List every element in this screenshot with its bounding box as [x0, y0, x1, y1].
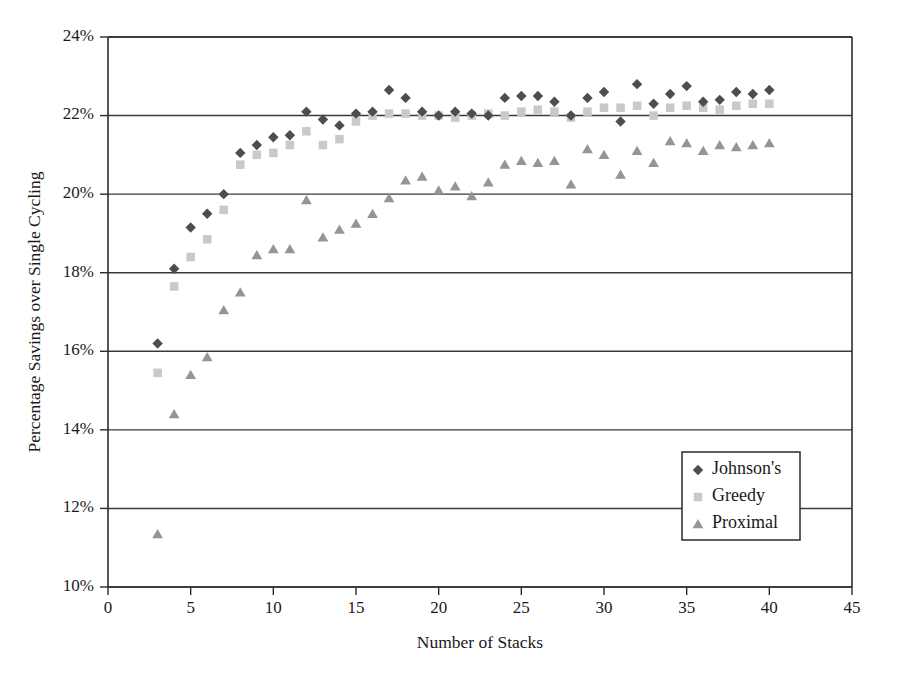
series-johnson-s — [152, 79, 774, 349]
data-point — [268, 244, 279, 253]
data-point — [170, 282, 179, 291]
data-point — [185, 370, 196, 379]
legend-label: Greedy — [712, 485, 765, 505]
y-tick-label: 20% — [63, 183, 94, 202]
data-point — [681, 81, 691, 91]
data-point — [747, 140, 758, 149]
data-point — [185, 222, 195, 232]
y-tick-label: 18% — [63, 262, 94, 281]
data-point — [186, 253, 195, 262]
data-point — [599, 87, 609, 97]
data-point — [534, 105, 543, 114]
data-point — [516, 156, 527, 165]
data-point — [714, 140, 725, 149]
data-point — [400, 175, 411, 184]
data-point — [566, 179, 577, 188]
data-point — [632, 79, 642, 89]
data-point — [632, 146, 643, 155]
data-point — [633, 101, 642, 110]
data-point — [615, 169, 626, 178]
data-point — [169, 409, 180, 418]
data-point — [532, 158, 543, 167]
data-point — [765, 100, 774, 109]
data-point — [251, 250, 262, 259]
data-point — [302, 127, 311, 136]
y-tick-label: 12% — [63, 497, 94, 516]
data-point — [549, 156, 560, 165]
data-point — [433, 185, 444, 194]
data-point — [385, 109, 394, 118]
data-point — [666, 103, 675, 112]
data-point — [152, 338, 162, 348]
y-tick-label: 14% — [63, 419, 94, 438]
data-point — [253, 151, 262, 160]
data-point — [682, 101, 691, 110]
series-greedy — [153, 100, 773, 378]
y-tick-label: 22% — [63, 104, 94, 123]
legend-marker-square — [694, 493, 703, 502]
data-point — [219, 206, 228, 215]
legend-label: Proximal — [712, 512, 778, 532]
chart-legend[interactable]: Johnson'sGreedyProximal — [682, 452, 800, 540]
data-point — [715, 105, 724, 114]
data-point — [715, 95, 725, 105]
data-point — [384, 85, 394, 95]
data-point — [235, 148, 245, 158]
data-point — [218, 305, 229, 314]
y-tick-label: 10% — [63, 576, 94, 595]
x-axis-ticks: 051015202530354045 — [104, 587, 861, 617]
x-tick-label: 40 — [761, 598, 778, 617]
x-tick-label: 5 — [186, 598, 195, 617]
data-point — [268, 132, 278, 142]
data-point — [616, 103, 625, 112]
data-point — [549, 97, 559, 107]
y-tick-label: 24% — [63, 26, 94, 45]
data-point — [236, 160, 245, 169]
data-point — [219, 189, 229, 199]
x-tick-label: 10 — [265, 598, 282, 617]
data-point — [401, 109, 410, 118]
data-point — [319, 141, 328, 150]
data-point — [202, 209, 212, 219]
data-point — [582, 93, 592, 103]
legend-label: Johnson's — [712, 458, 781, 478]
x-tick-label: 45 — [844, 598, 861, 617]
data-point — [615, 116, 625, 126]
data-point — [285, 130, 295, 140]
data-point — [318, 232, 329, 241]
data-point — [499, 160, 510, 169]
y-tick-label: 16% — [63, 340, 94, 359]
data-point — [152, 529, 163, 538]
data-point — [367, 209, 378, 218]
x-tick-label: 25 — [513, 598, 530, 617]
x-tick-label: 0 — [104, 598, 113, 617]
data-point — [681, 138, 692, 147]
data-point — [286, 141, 295, 150]
data-point — [483, 177, 494, 186]
data-point — [698, 146, 709, 155]
data-point — [202, 352, 213, 361]
data-point — [351, 219, 362, 228]
data-point — [550, 107, 559, 116]
data-point — [501, 111, 510, 120]
x-tick-label: 35 — [678, 598, 695, 617]
data-point — [648, 99, 658, 109]
data-point — [500, 93, 510, 103]
data-point — [284, 244, 295, 253]
data-point — [599, 150, 610, 159]
data-point — [335, 135, 344, 144]
data-point — [466, 191, 477, 200]
data-point — [649, 111, 658, 120]
data-point — [301, 195, 312, 204]
data-point — [583, 107, 592, 116]
data-point — [203, 235, 212, 244]
data-point — [235, 287, 246, 296]
data-point — [269, 149, 278, 158]
x-tick-label: 20 — [430, 598, 447, 617]
data-point — [731, 142, 742, 151]
data-point — [517, 107, 526, 116]
data-point — [600, 103, 609, 112]
data-point — [334, 120, 344, 130]
data-point — [665, 89, 675, 99]
x-tick-label: 30 — [596, 598, 613, 617]
